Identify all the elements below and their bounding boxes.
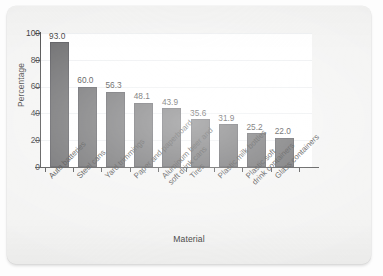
x-tick-mark [73,167,74,172]
bar-value-label: 93.0 [49,32,65,40]
y-tick-label: 20 [12,136,40,144]
x-tick-mark [299,167,300,172]
x-tick-mark [130,167,131,172]
bar [50,42,69,167]
y-tick-label: 60 [12,82,40,90]
bar-value-label: 60.0 [77,76,93,84]
bar-value-label: 43.9 [162,98,178,106]
y-axis-ticks: 020406080100 [7,6,40,264]
bar-value-label: 56.3 [106,81,122,89]
gridline [40,33,312,34]
x-tick-mark [158,167,159,172]
x-tick-mark [242,167,243,172]
gridline [40,60,312,61]
chart-card: Percentage 020406080100 93.060.056.348.1… [7,6,371,264]
x-tick-mark [45,167,46,172]
y-tick-label: 80 [12,56,40,64]
bar-value-label: 31.9 [218,114,234,122]
x-axis-title: Material [7,234,371,244]
bar-value-label: 48.1 [134,92,150,100]
y-tick-label: 0 [12,163,40,171]
x-tick-mark [101,167,102,172]
x-tick-mark [214,167,215,172]
y-tick-label: 100 [12,29,40,37]
y-tick-label: 40 [12,109,40,117]
screenshot-page: Percentage 020406080100 93.060.056.348.1… [0,0,383,276]
bar-chart-figure: Percentage 020406080100 93.060.056.348.1… [7,6,371,264]
bar-value-label: 35.6 [190,109,206,117]
y-axis-line [40,32,41,168]
